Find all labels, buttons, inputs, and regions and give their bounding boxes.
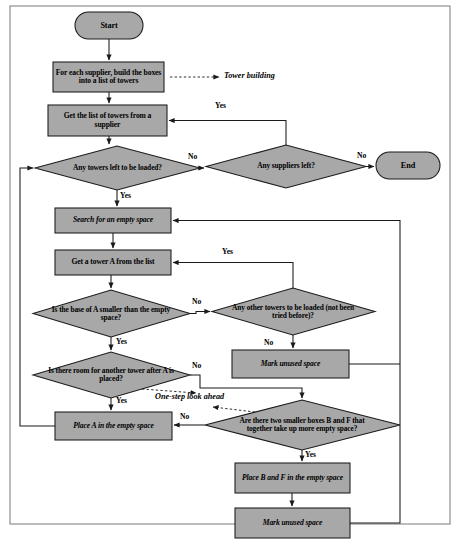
flowchart-graphics bbox=[0, 0, 460, 553]
node-suppliers-left bbox=[206, 145, 366, 188]
edge-placea-feedback bbox=[20, 168, 55, 426]
edge-base-no bbox=[190, 312, 210, 314]
node-base-smaller bbox=[33, 290, 190, 337]
node-get-tower-a bbox=[55, 250, 171, 275]
node-place-a bbox=[55, 412, 172, 440]
node-search-space bbox=[55, 208, 171, 233]
node-get-list bbox=[48, 105, 167, 136]
edge-markunused2-to-bus bbox=[350, 364, 400, 523]
node-towers-left bbox=[35, 146, 200, 190]
leader-look-ahead-upper bbox=[142, 389, 196, 393]
leader-look-ahead-lower bbox=[213, 407, 255, 412]
node-place-bf bbox=[235, 463, 350, 493]
edge-suppliersleft-yes bbox=[169, 121, 286, 146]
node-mark-unused-2 bbox=[235, 508, 350, 538]
node-start bbox=[75, 12, 143, 39]
edge-othertowers-yes bbox=[173, 263, 293, 289]
node-end bbox=[376, 152, 440, 179]
flowchart-canvas: Start For each supplier, build the boxes… bbox=[0, 0, 460, 553]
node-build-towers bbox=[53, 62, 164, 92]
node-other-towers bbox=[212, 288, 375, 335]
node-mark-unused-1 bbox=[232, 350, 349, 378]
node-two-smaller bbox=[205, 400, 400, 450]
